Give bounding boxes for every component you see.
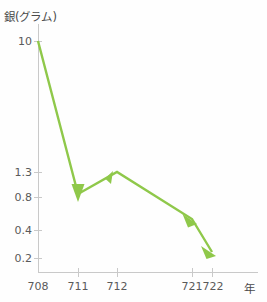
chart-plot-area xyxy=(0,0,267,302)
x-tick-label-708: 708 xyxy=(28,280,49,293)
x-tick-label-721: 721 xyxy=(182,280,203,293)
y-tick-label-0-4: 0.4 xyxy=(2,224,32,237)
arrow-marker-712 xyxy=(105,171,113,184)
y-tick-label-10: 10 xyxy=(2,35,32,48)
y-tick-label-1-3: 1.3 xyxy=(2,166,32,179)
y-tick-label-0-2: 0.2 xyxy=(2,252,32,265)
silver-price-chart: 銀(グラム) xyxy=(0,0,267,302)
arrow-marker-711 xyxy=(72,184,85,202)
x-tick-label-722: 722 xyxy=(203,280,224,293)
y-tick-label-0-8: 0.8 xyxy=(2,191,32,204)
x-tick-label-711: 711 xyxy=(68,280,89,293)
x-tick-label-712: 712 xyxy=(107,280,128,293)
x-axis-unit-label: 年 xyxy=(244,280,255,296)
